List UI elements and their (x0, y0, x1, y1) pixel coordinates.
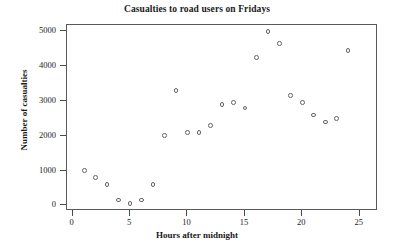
data-point (220, 102, 225, 107)
data-point (288, 93, 293, 98)
x-axis-tick (129, 210, 130, 216)
data-point (277, 41, 282, 46)
data-point (243, 106, 248, 111)
data-point (93, 175, 98, 180)
data-point (208, 123, 213, 128)
data-point (197, 130, 202, 135)
x-axis-tick-label: 25 (344, 218, 374, 227)
y-axis-tick-label: 2000 (0, 131, 56, 140)
data-point (300, 100, 305, 105)
x-axis-tick-label: 5 (114, 218, 144, 227)
data-point (82, 168, 87, 173)
x-axis-title: Hours after midnight (0, 230, 394, 240)
x-axis-tick (244, 210, 245, 216)
data-points-layer (67, 25, 376, 209)
plot-area (66, 24, 377, 210)
y-axis-tick-label: 1000 (0, 166, 56, 175)
data-point (266, 29, 271, 34)
y-axis-tick-label: 4000 (0, 61, 56, 70)
data-point (334, 116, 339, 121)
x-axis-tick (301, 210, 302, 216)
y-axis-tick-label: 3000 (0, 96, 56, 105)
data-point (346, 48, 351, 53)
x-axis-tick (186, 210, 187, 216)
y-axis-tick-label: 0 (0, 200, 56, 209)
x-axis-tick (72, 210, 73, 216)
data-point (185, 130, 190, 135)
scatter-chart: Casualties to road users on Fridays Numb… (0, 0, 394, 245)
chart-title: Casualties to road users on Fridays (0, 4, 394, 14)
data-point (311, 113, 316, 118)
x-axis-tick-label: 20 (286, 218, 316, 227)
x-axis-tick-label: 15 (229, 218, 259, 227)
data-point (105, 182, 110, 187)
data-point (231, 100, 236, 105)
data-point (128, 201, 133, 206)
data-point (162, 133, 167, 138)
data-point (139, 198, 144, 203)
x-axis-tick-label: 10 (171, 218, 201, 227)
data-point (323, 120, 328, 125)
data-point (174, 88, 179, 93)
x-axis-tick (359, 210, 360, 216)
y-axis-tick-label: 5000 (0, 26, 56, 35)
data-point (254, 55, 259, 60)
data-point (151, 182, 156, 187)
data-point (116, 198, 121, 203)
x-axis-tick-label: 0 (57, 218, 87, 227)
